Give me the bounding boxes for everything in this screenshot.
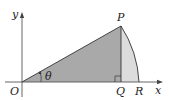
- y-axis-arrow-icon: [20, 12, 24, 18]
- label-o: O: [10, 85, 19, 98]
- label-q: Q: [116, 85, 125, 98]
- circular-segment-region: [121, 26, 139, 82]
- label-x: x: [155, 84, 162, 97]
- label-p: P: [116, 11, 125, 24]
- label-r: R: [134, 85, 143, 98]
- sector-diagram: y x O P Q R θ: [0, 0, 169, 100]
- label-y: y: [11, 8, 19, 21]
- label-theta: θ: [45, 70, 52, 83]
